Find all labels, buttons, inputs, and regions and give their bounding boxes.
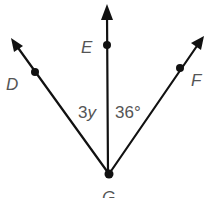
label-e: E — [81, 38, 93, 57]
ray-ge-arrowhead-icon — [101, 4, 113, 20]
ray-gf-arrowhead-icon — [191, 36, 204, 50]
point-f — [176, 64, 184, 72]
point-g — [105, 170, 114, 179]
ray-gd-arrowhead-icon — [11, 38, 23, 52]
label-f: F — [191, 71, 203, 90]
angle-label-egf: 36° — [115, 103, 141, 122]
angle-diagram: D E F G 3y 36° — [0, 0, 207, 198]
ray-ge-line — [107, 12, 108, 174]
ray-ge — [101, 4, 113, 174]
label-g: G — [102, 188, 115, 198]
point-e — [103, 41, 111, 49]
label-d: D — [6, 75, 18, 94]
angle-label-dge: 3y — [78, 103, 97, 122]
point-d — [31, 68, 39, 76]
